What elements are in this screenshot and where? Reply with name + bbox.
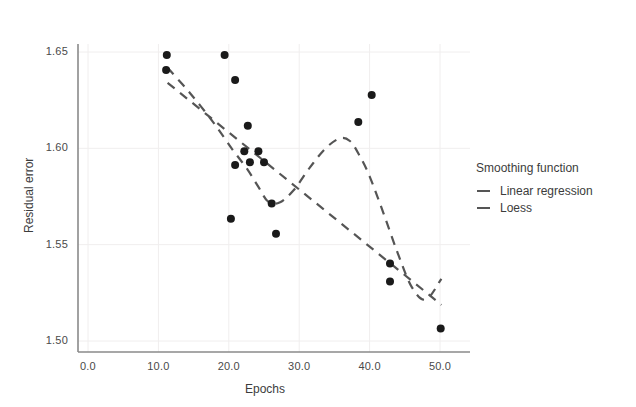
data-point: [268, 200, 276, 208]
y-tick-label: 1.50: [28, 334, 68, 346]
data-point: [227, 215, 235, 223]
y-tick-label: 1.65: [28, 45, 68, 57]
x-tick-label: 50.0: [418, 360, 462, 372]
scatter-points: [162, 51, 445, 333]
y-tick-label: 1.60: [28, 141, 68, 153]
legend-label: Loess: [500, 201, 532, 215]
data-point: [368, 91, 376, 99]
dashed-line-icon: [476, 185, 492, 197]
data-point: [354, 118, 362, 126]
data-point: [246, 158, 254, 166]
y-tick-label: 1.55: [28, 238, 68, 250]
axis-spines: [78, 44, 470, 352]
gridlines: [78, 44, 470, 352]
data-point: [386, 278, 394, 286]
x-tick-label: 40.0: [348, 360, 392, 372]
trend-line-loess: [168, 68, 442, 300]
x-tick-label: 10.0: [136, 360, 180, 372]
data-point: [254, 147, 262, 155]
x-tick-label: 0.0: [66, 360, 110, 372]
legend-item-loess[interactable]: Loess: [476, 199, 626, 216]
data-point: [163, 51, 171, 59]
y-axis-title: Residual error: [22, 158, 36, 233]
data-point: [231, 161, 239, 169]
x-tick-label: 20.0: [207, 360, 251, 372]
legend: Smoothing function Linear regression Loe…: [476, 161, 626, 216]
data-point: [221, 51, 229, 59]
data-point: [231, 76, 239, 84]
x-tick-label: 30.0: [277, 360, 321, 372]
trend-line-linear-regression: [168, 83, 442, 305]
data-point: [386, 260, 394, 268]
trend-lines: [168, 68, 442, 305]
data-point: [437, 325, 445, 333]
dashed-line-icon: [476, 202, 492, 214]
data-point: [240, 147, 248, 155]
data-point: [260, 158, 268, 166]
legend-item-linear-regression[interactable]: Linear regression: [476, 182, 626, 199]
data-point: [162, 66, 170, 74]
data-point: [272, 230, 280, 238]
legend-title: Smoothing function: [476, 161, 626, 175]
chart-figure: 1.501.551.601.65 0.010.020.030.040.050.0…: [0, 0, 636, 407]
x-axis-title: Epochs: [245, 382, 285, 396]
data-point: [244, 122, 252, 130]
legend-label: Linear regression: [500, 184, 593, 198]
